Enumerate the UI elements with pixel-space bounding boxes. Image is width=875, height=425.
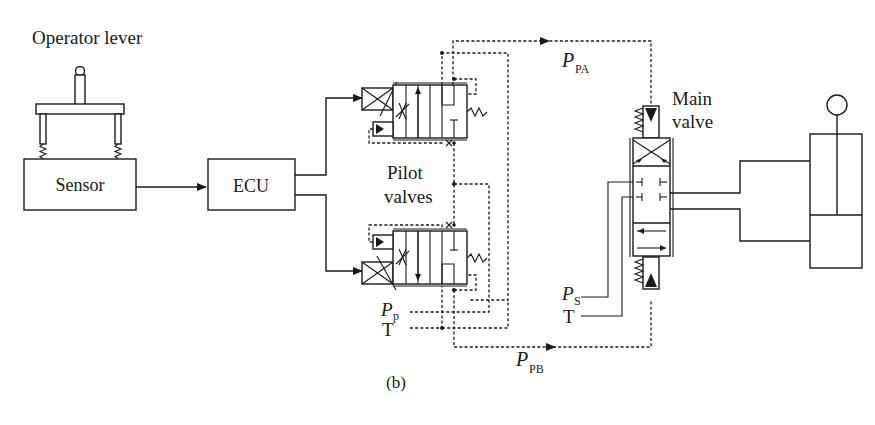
cylinder-line-b bbox=[670, 209, 810, 241]
sensor-block: Sensor bbox=[24, 159, 136, 210]
sensor-label: Sensor bbox=[56, 175, 105, 195]
spring-icon bbox=[40, 144, 46, 159]
main-tank-label: T bbox=[563, 306, 575, 327]
spring-icon bbox=[635, 259, 643, 283]
supply-line bbox=[581, 182, 633, 297]
figure-caption: (b) bbox=[386, 373, 406, 392]
tank-line bbox=[581, 197, 633, 316]
hydraulic-cylinder bbox=[810, 95, 862, 268]
ecu-block: ECU bbox=[208, 159, 295, 210]
pilot-valve-a bbox=[362, 79, 487, 146]
signal-arrow-b bbox=[295, 195, 362, 271]
ps-subscript: S bbox=[574, 294, 581, 308]
lever-leg-right bbox=[115, 114, 121, 144]
pilot-valves-label-2: valves bbox=[384, 186, 433, 207]
ppa-label: P bbox=[561, 49, 574, 71]
spring-icon bbox=[467, 254, 487, 262]
ps-label: P bbox=[561, 283, 574, 304]
ppa-line bbox=[453, 41, 651, 106]
main-valve: Main valve bbox=[581, 88, 713, 316]
spring-icon bbox=[115, 144, 121, 159]
operator-lever: Operator lever bbox=[32, 27, 143, 159]
spring-icon bbox=[467, 108, 487, 116]
lever-knob-icon bbox=[76, 67, 85, 76]
pp-label: P bbox=[380, 299, 393, 320]
cylinder-line-a bbox=[670, 161, 810, 193]
pp-subscript: p bbox=[393, 309, 399, 323]
hydraulic-control-diagram: Operator lever Sensor ECU bbox=[0, 0, 875, 425]
pilot-valves-label-1: Pilot bbox=[387, 162, 424, 183]
signal-arrow-a bbox=[295, 98, 362, 175]
operator-lever-label: Operator lever bbox=[32, 27, 143, 48]
ppa-subscript: PA bbox=[575, 62, 590, 76]
lever-stick bbox=[75, 75, 85, 105]
ppb-subscript: PB bbox=[529, 362, 544, 376]
main-valve-label-1: Main bbox=[672, 88, 713, 109]
ecu-label: ECU bbox=[233, 176, 269, 196]
load-icon bbox=[827, 95, 847, 115]
ppb-label: P bbox=[515, 348, 528, 370]
main-valve-label-2: valve bbox=[672, 111, 713, 132]
pilot-pressure-lines bbox=[410, 37, 651, 351]
pilot-tank-label: T bbox=[382, 319, 394, 340]
lever-leg-left bbox=[40, 114, 46, 144]
pilot-valve-b bbox=[362, 222, 487, 290]
lever-plate bbox=[36, 104, 124, 114]
spring-icon bbox=[635, 108, 643, 132]
